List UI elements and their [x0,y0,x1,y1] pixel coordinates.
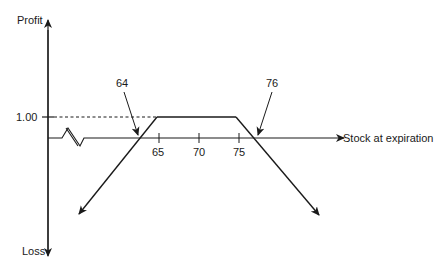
x-axis-break-icon [48,128,86,146]
callout-64-arrow [124,92,138,135]
tick-label-70: 70 [193,146,205,158]
tick-label-75: 75 [233,146,245,158]
level-label: 1.00 [16,111,37,123]
loss-label: Loss [22,245,45,257]
tick-label-65: 65 [152,146,164,158]
profit-label: Profit [17,14,43,26]
breakeven-high-label: 76 [266,77,278,89]
breakeven-low-label: 64 [116,77,128,89]
x-axis-label: Stock at expiration [343,132,434,144]
callout-76-arrow [258,92,272,135]
